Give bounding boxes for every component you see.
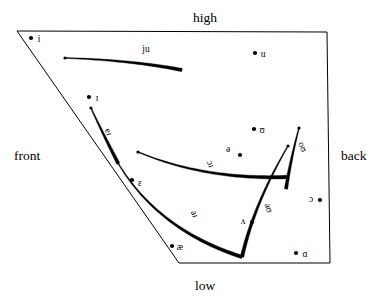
vowel-symbol-i: i [38, 34, 41, 44]
diphthong-arrowhead-aʊ [286, 144, 289, 147]
axis-label-front: front [14, 148, 40, 163]
vowel-quadrilateral-figure: iuɪʊəɛɔʌæɑ jueɪɔɪaɪaʊoʊ high low front b… [0, 0, 386, 301]
diphthong-stroke-oʊ [284, 128, 299, 189]
vowel-dot-ə [238, 153, 242, 157]
diphthong-layer [63, 56, 300, 258]
diphthong-label-layer: jueɪɔɪaɪaʊoʊ [103, 44, 309, 219]
vowel-symbol-ə: ə [226, 144, 230, 154]
vowel-symbol-ʌ: ʌ [241, 216, 246, 226]
diphthong-stroke-ju [65, 58, 182, 72]
vowel-symbol-ɛ: ɛ [138, 178, 142, 188]
vowel-dot-ɪ [87, 95, 91, 99]
diphthong-arrowhead-ju [63, 56, 66, 59]
vowel-symbol-ɑ: ɑ [303, 249, 308, 259]
diphthong-label-ju: ju [141, 44, 150, 54]
diphthong-label-oʊ: oʊ [296, 141, 309, 154]
vowel-dot-ɑ [294, 251, 298, 255]
vowel-chart-canvas: iuɪʊəɛɔʌæɑ jueɪɔɪaɪaʊoʊ high low front b… [0, 0, 386, 301]
axis-label-high: high [193, 10, 217, 25]
axis-label-low: low [195, 278, 216, 293]
diphthong-arrowhead-ɔɪ [136, 150, 139, 153]
diphthong-label-aʊ: aʊ [263, 202, 276, 214]
vowel-dot-u [253, 51, 257, 55]
diphthong-arrowhead-oʊ [297, 126, 300, 129]
vowel-dot-ʊ [252, 127, 256, 131]
vowel-symbol-ʊ: ʊ [259, 125, 264, 135]
vowel-symbol-æ: æ [177, 242, 184, 252]
vowel-dot-ɔ [318, 198, 322, 202]
vowel-dot-ɛ [130, 178, 134, 182]
diphthong-stroke-aʊ [240, 146, 288, 258]
vowel-symbol-u: u [261, 49, 266, 59]
vowel-dot-i [29, 36, 33, 40]
diphthong-label-ɔɪ: ɔɪ [205, 159, 217, 169]
diphthong-label-aɪ: aɪ [189, 209, 201, 219]
vowel-symbol-ɪ: ɪ [96, 93, 99, 103]
vowel-symbol-ɔ: ɔ [309, 194, 313, 204]
vowel-dot-ʌ [250, 220, 254, 224]
axis-label-back: back [341, 148, 367, 163]
vowel-quadrilateral-outline [17, 31, 330, 263]
diphthong-arrowhead-aɪ [116, 161, 119, 164]
vowel-dot-æ [170, 244, 174, 248]
diphthong-arrowhead-eɪ [89, 106, 92, 109]
